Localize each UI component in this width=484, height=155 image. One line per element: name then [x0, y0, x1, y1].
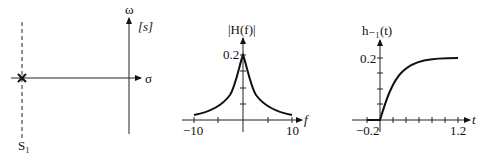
s1-label: S₁ [18, 138, 30, 153]
step-ytick-label: 0.2 [360, 51, 376, 66]
sigma-label: σ [145, 71, 152, 86]
magnitude-panel: |H(f)| 0.2 −10 10 f [182, 22, 310, 138]
magnitude-ytick-label: 0.2 [223, 47, 239, 62]
t-ticks [367, 58, 458, 123]
s-plane-panel: ω [s] σ S₁ [11, 2, 153, 153]
figure-canvas: ω [s] σ S₁ |H(f)| 0.2 −10 10 f [0, 0, 484, 155]
f-label: f [304, 112, 310, 127]
step-panel: h₋₁(t) 0.2 −0.2 1.2 t [352, 23, 476, 138]
s-plane-title: [s] [138, 19, 153, 34]
magnitude-ylabel: |H(f)| [228, 22, 256, 37]
step-ylabel: h₋₁(t) [362, 23, 392, 38]
f-tick-10: 10 [286, 123, 299, 138]
t-tick-12: 1.2 [450, 123, 466, 138]
t-label: t [472, 112, 476, 127]
f-tick-neg10: −10 [183, 123, 203, 138]
omega-label: ω [125, 2, 134, 17]
t-tick-neg02: −0.2 [356, 123, 380, 138]
